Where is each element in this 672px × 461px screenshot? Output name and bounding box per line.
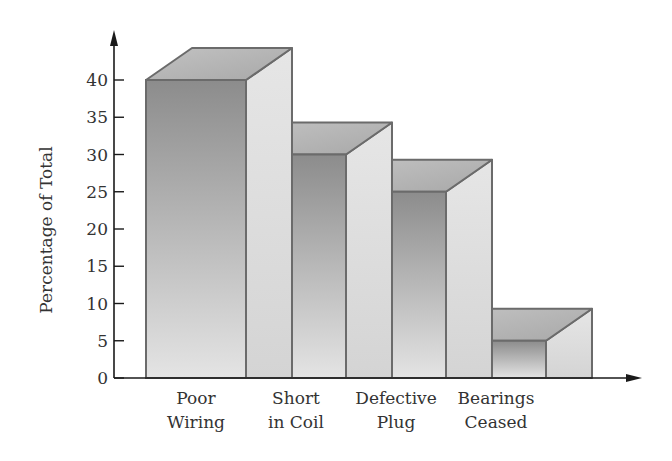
bar-side-face — [446, 160, 492, 378]
x-category-label: BearingsCeased — [458, 388, 535, 432]
x-category-label-line: Short — [272, 388, 320, 408]
y-tick-label: 20 — [86, 219, 108, 239]
bar-poor-wiring — [146, 48, 292, 378]
y-tick-label: 25 — [86, 182, 108, 202]
y-axis-title: Percentage of Total — [36, 146, 56, 313]
y-tick-label: 40 — [86, 70, 108, 90]
y-tick-label: 10 — [86, 294, 108, 314]
x-axis-arrow-icon — [626, 374, 642, 382]
bar-front-face — [146, 80, 246, 378]
x-category-label-line: in Coil — [268, 412, 324, 432]
x-category-label: Shortin Coil — [268, 388, 324, 432]
y-tick-label: 0 — [97, 368, 108, 388]
x-category-label-line: Bearings — [458, 388, 535, 408]
y-tick-label: 30 — [86, 145, 108, 165]
bars-group — [146, 48, 592, 378]
bar-side-face — [346, 123, 392, 379]
y-tick-label: 5 — [97, 331, 108, 351]
y-axis-ticks: 0510152025303540 — [86, 70, 124, 388]
x-category-label-line: Defective — [355, 388, 437, 408]
x-axis-labels: PoorWiringShortin CoilDefectivePlugBeari… — [167, 388, 534, 432]
y-tick-label: 35 — [86, 107, 108, 127]
x-category-label-line: Poor — [176, 388, 216, 408]
x-category-label-line: Wiring — [167, 412, 225, 432]
x-category-label: DefectivePlug — [355, 388, 437, 432]
pareto-bar-chart: 0510152025303540 PoorWiringShortin CoilD… — [0, 0, 672, 461]
x-category-label: PoorWiring — [167, 388, 225, 432]
x-category-label-line: Ceased — [465, 412, 528, 432]
bar-side-face — [246, 48, 292, 378]
x-category-label-line: Plug — [377, 412, 416, 432]
y-axis-arrow-icon — [110, 30, 118, 46]
y-tick-label: 15 — [86, 256, 108, 276]
